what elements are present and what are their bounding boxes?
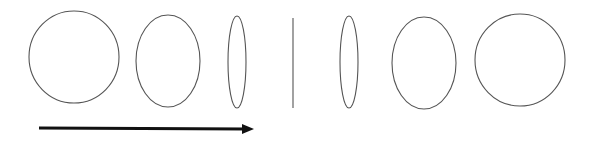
shapes-group: [29, 11, 565, 109]
thin-ellipse-5: [340, 16, 358, 108]
diagram-canvas: [0, 0, 589, 141]
ellipse-2: [136, 15, 200, 107]
circle-7: [475, 14, 565, 106]
progression-arrow: [39, 124, 254, 134]
arrow-shaft: [39, 128, 246, 129]
circle-1: [29, 11, 119, 103]
thin-ellipse-3: [228, 16, 246, 108]
ellipse-6: [392, 17, 456, 109]
arrow-head-icon: [242, 124, 254, 134]
diagram-svg: [0, 0, 589, 141]
